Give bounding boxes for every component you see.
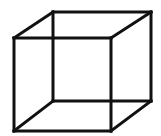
- cube-edge-connector-bottom-left: [14, 101, 53, 131]
- cube-edge-connector-bottom-right: [111, 101, 151, 131]
- cube-edge-group: [14, 12, 151, 131]
- cube-edge-connector-top-right: [111, 12, 151, 38]
- cube-edge-connector-top-left: [14, 12, 53, 38]
- necker-cube-figure: [0, 0, 161, 136]
- cube-drawing-surface: [0, 0, 161, 136]
